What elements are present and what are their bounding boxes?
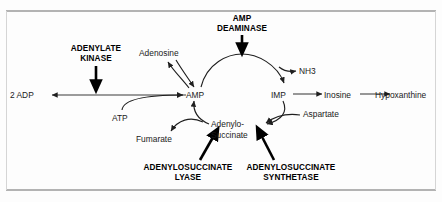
label-atp: ATP <box>112 113 128 123</box>
enzyme-adenylosuccinate-synthetase-line2: SYNTHETASE <box>263 173 319 182</box>
edge-adenylosuccinate-to-amp <box>194 101 209 124</box>
label-fumarate: Fumarate <box>136 134 172 144</box>
label-adp: 2 ADP <box>10 90 34 100</box>
edge-atp-to-amp <box>122 95 183 110</box>
label-inosine: Inosine <box>324 90 351 100</box>
enzyme-adenylate-kinase-line2: KINASE <box>80 54 112 63</box>
label-imp: IMP <box>271 90 286 100</box>
enzyme-adenylosuccinate-lyase-line2: LYASE <box>175 173 202 182</box>
purine-nucleotide-cycle-figure: 2 ADP ATP Adenosine AMP IMP NH3 Inosine … <box>0 0 442 202</box>
enzyme-amp-deaminase-line2: DEAMINASE <box>217 24 267 33</box>
label-adenylosuccinate-line1: Adenylo- <box>211 119 244 129</box>
label-adenylosuccinate-line2: Succinate <box>211 130 248 140</box>
edge-amp-to-imp-arc <box>201 54 284 87</box>
enzyme-arrow-adenylosuccinate-synthetase <box>259 131 274 160</box>
enzyme-amp-deaminase-line1: AMP <box>233 14 252 23</box>
edge-aspartate-to-adenylosuccinate <box>266 114 300 123</box>
enzyme-adenylosuccinate-synthetase-line1: ADENYLOSUCCINATE <box>247 163 336 172</box>
label-nh3: NH3 <box>299 66 316 76</box>
edge-adenylosuccinate-to-fumarate <box>171 119 203 131</box>
label-hypoxanthine: Hypoxanthine <box>375 90 427 100</box>
edge-imp-to-nh3 <box>279 67 296 72</box>
enzyme-adenylosuccinate-lyase-line1: ADENYLOSUCCINATE <box>144 163 233 172</box>
label-aspartate: Aspartate <box>303 109 339 119</box>
label-amp: AMP <box>186 90 205 100</box>
enzyme-adenylate-kinase-line1: ADENYLATE <box>71 44 122 53</box>
label-adenosine: Adenosine <box>139 48 179 58</box>
